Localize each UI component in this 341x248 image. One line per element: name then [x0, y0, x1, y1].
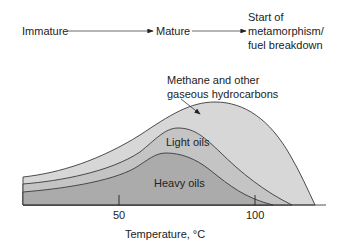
- maturation-diagram: [0, 0, 341, 248]
- tick-label-100: 100: [246, 208, 264, 222]
- tick-label-50: 50: [113, 208, 125, 222]
- gas-label: Methane and other gaseous hydrocarbons: [167, 73, 278, 101]
- x-axis-label: Temperature, °C: [125, 227, 205, 241]
- light-oils-label: Light oils: [166, 135, 209, 149]
- heavy-oils-label: Heavy oils: [154, 176, 205, 190]
